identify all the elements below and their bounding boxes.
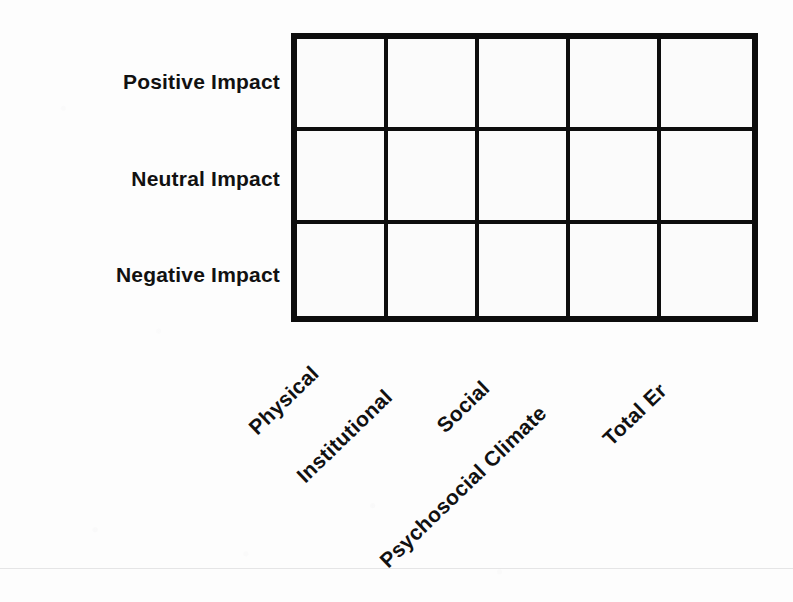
matrix-cell[interactable] xyxy=(661,39,752,131)
matrix-cell[interactable] xyxy=(388,131,479,223)
matrix-cell[interactable] xyxy=(388,224,479,316)
matrix-cell[interactable] xyxy=(479,224,570,316)
column-label-institutional: Institutional xyxy=(293,386,396,486)
impact-matrix-grid xyxy=(291,33,758,322)
scan-edge-line xyxy=(0,568,793,569)
matrix-cell[interactable] xyxy=(661,131,752,223)
matrix-cell[interactable] xyxy=(570,224,661,316)
matrix-cell[interactable] xyxy=(479,39,570,131)
matrix-cell[interactable] xyxy=(479,131,570,223)
column-label-physical: Physical xyxy=(245,362,323,438)
matrix-cell[interactable] xyxy=(570,131,661,223)
matrix-cell[interactable] xyxy=(297,39,388,131)
row-label-positive-impact: Positive Impact xyxy=(20,71,280,92)
row-label-neutral-impact: Neutral Impact xyxy=(20,168,280,189)
matrix-cell[interactable] xyxy=(388,39,479,131)
column-label-total-er: Total Er xyxy=(599,379,670,449)
matrix-cell[interactable] xyxy=(661,224,752,316)
row-label-negative-impact: Negative Impact xyxy=(20,264,280,285)
column-label-psychosocial-climate: Psychosocial Climate xyxy=(376,402,550,571)
matrix-cell[interactable] xyxy=(297,224,388,316)
column-label-social: Social xyxy=(433,377,493,436)
matrix-cell[interactable] xyxy=(570,39,661,131)
figure-page: Positive Impact Neutral Impact Negative … xyxy=(0,0,793,602)
matrix-cell[interactable] xyxy=(297,131,388,223)
